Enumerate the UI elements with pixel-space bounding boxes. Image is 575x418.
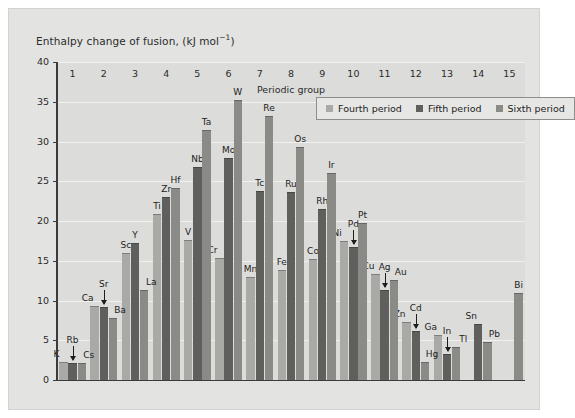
bar-Ba[interactable] [109,318,118,380]
bar-Hf[interactable] [171,188,180,380]
bar-Fe[interactable] [278,270,287,380]
bar-cap [327,173,336,174]
bar-cap [246,277,255,278]
bar-cap [309,259,318,260]
bar-label-Re: Re [252,103,286,113]
bar-cap [68,363,77,364]
bar-label-Au: Au [384,267,418,277]
bar-label-Sn: Sn [454,311,488,321]
bar-cap [131,243,140,244]
bar-Rh[interactable] [318,209,327,380]
legend-swatch-icon [416,105,423,112]
bar-Sr[interactable] [100,307,109,380]
bar-Sc[interactable] [122,253,131,380]
bar-Rb[interactable] [68,363,77,380]
bar-Pb[interactable] [483,342,492,380]
leader-line-Pd [353,230,354,244]
bar-cap [171,188,180,189]
y-tick-mark [53,340,57,341]
y-tick-label: 30 [23,136,49,147]
bar-cap [202,130,211,131]
bar-Pd[interactable] [349,247,358,380]
bar-label-Ir: Ir [314,160,348,170]
bar-Zn[interactable] [402,322,411,380]
bar-Ti[interactable] [153,214,162,380]
x-axis-label: Periodic group [57,84,525,95]
gridline [57,62,525,63]
y-tick-label: 15 [23,255,49,266]
y-tick-label: 0 [23,374,49,385]
bar-cap [215,258,224,259]
bar-Ta[interactable] [202,130,211,380]
bar-cap [234,100,243,101]
leader-line-Sr [104,290,105,304]
bar-Cu[interactable] [371,274,380,380]
bar-cap [153,214,162,215]
bar-cap [184,240,193,241]
bar-label-Cs: Cs [72,350,106,360]
bar-label-Ca: Ca [71,293,105,303]
y-tick-label: 20 [23,215,49,226]
legend-swatch-icon [326,105,333,112]
x-tick-label: 15 [489,68,529,79]
bar-cap [402,322,411,323]
bar-cap [318,209,327,210]
bar-label-Hf: Hf [158,175,192,185]
bar-Ir[interactable] [327,173,336,380]
legend-item-1[interactable]: Fourth period [326,103,402,114]
bar-Cr[interactable] [215,258,224,380]
bar-label-La: La [134,277,168,287]
bar-label-Rb: Rb [56,335,90,345]
bar-Hg[interactable] [421,362,430,380]
bar-Re[interactable] [265,116,274,380]
bar-W[interactable] [234,100,243,380]
bar-cap [265,116,274,117]
bar-V[interactable] [184,240,193,380]
bar-label-Cd: Cd [399,303,433,313]
y-tick-label: 10 [23,295,49,306]
bar-Os[interactable] [296,147,305,380]
y-tick-mark [53,380,57,381]
bar-Bi[interactable] [514,293,523,380]
y-tick-mark [53,142,57,143]
bar-label-Pt: Pt [346,210,380,220]
bar-cap [483,342,492,343]
bar-Zr[interactable] [162,197,171,380]
bar-cap [296,147,305,148]
bar-label-Ta: Ta [190,117,224,127]
bar-Ag[interactable] [380,290,389,380]
bar-Mo[interactable] [224,158,233,380]
chart-title: Enthalpy change of fusion, (kJ mol−1) [36,33,235,47]
bar-cap [371,274,380,275]
bar-label-Pb: Pb [477,329,511,339]
bar-cap [452,347,461,348]
bar-Co[interactable] [309,259,318,380]
bar-Pt[interactable] [358,223,367,380]
bar-La[interactable] [140,290,149,380]
bar-label-Hg: Hg [415,349,449,359]
bar-Tl[interactable] [452,347,461,380]
bar-Tc[interactable] [256,191,265,380]
bar-Cs[interactable] [78,363,87,380]
bar-Au[interactable] [390,280,399,380]
bar-Mn[interactable] [246,277,255,380]
legend-item-3[interactable]: Sixth period [496,103,565,114]
bar-Ni[interactable] [340,241,349,380]
bar-Ru[interactable] [287,192,296,380]
bar-Ca[interactable] [90,306,99,380]
bar-cap [193,167,202,168]
bar-cap [390,280,399,281]
bar-cap [358,223,367,224]
legend-item-2[interactable]: Fifth period [416,103,482,114]
y-tick-label: 25 [23,175,49,186]
bar-label-Bi: Bi [502,280,536,290]
chart-title-superscript: −1 [219,33,230,42]
bar-cap [162,197,171,198]
legend-swatch-icon [496,105,503,112]
bar-cap [421,362,430,363]
bar-K[interactable] [59,362,68,380]
y-tick-mark [53,62,57,63]
bar-label-Tl: Tl [446,334,480,344]
bar-Nb[interactable] [193,167,202,380]
bar-cap [340,241,349,242]
